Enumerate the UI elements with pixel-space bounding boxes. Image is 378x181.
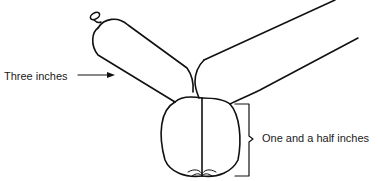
bracket-icon <box>235 104 253 176</box>
arrowhead-icon <box>107 72 115 78</box>
bubble-size-label: One and a half inches <box>262 132 369 144</box>
segment-length-label: Three inches <box>4 70 68 82</box>
left-tube-segment <box>89 11 193 102</box>
balloon-diagram <box>0 0 378 181</box>
right-upper-tube <box>195 0 335 98</box>
bottom-bubbles <box>161 98 240 176</box>
right-lower-tube <box>230 38 358 104</box>
